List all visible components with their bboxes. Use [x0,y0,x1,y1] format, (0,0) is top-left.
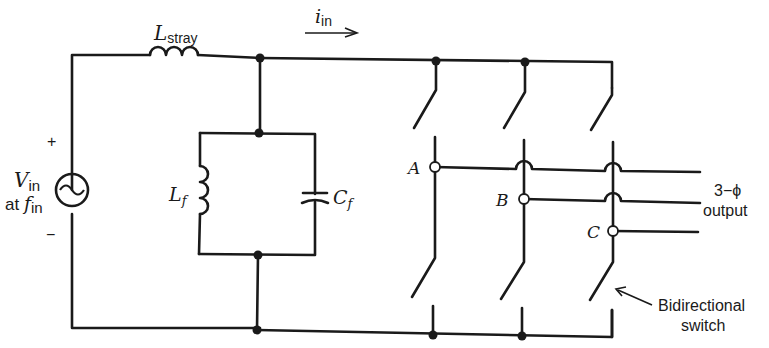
node-b-label: B [495,190,509,210]
filter-inductor-label: Lf [168,183,189,208]
stray-inductor-label: Lstray [153,21,198,46]
filter-inductor-icon [200,166,208,214]
upper-switches [414,61,612,130]
plus-sign: + [47,133,56,150]
output-label-line2: output [703,202,748,219]
pointer-arrow-icon [618,290,652,305]
node-c-terminal [608,226,618,236]
source-voltage-label: Vin [14,168,40,194]
source-branch [56,55,260,328]
minus-sign: − [46,226,55,243]
filter-capacitor-label: Cf [333,186,355,211]
switch-a-upper-icon [414,61,436,128]
source-frequency-label: at fin [5,192,43,216]
switch-label-line2: switch [681,317,725,334]
output-line-a [435,161,700,172]
node-a-terminal [430,162,440,172]
switch-c-upper-icon [591,88,612,130]
switch-b-upper-icon [504,62,525,128]
current-label: iin [315,5,332,29]
output-label-line1: 3−ϕ [714,182,741,199]
switch-label-line1: Bidirectional [658,297,745,314]
lc-filter [199,58,328,335]
leg-b [501,140,524,299]
node-c-label: C [587,222,600,242]
leg-c [590,142,613,300]
circuit-diagram: Lstray iin + − Vin at fin Lf Cf A B C 3−… [0,0,769,348]
output-line-c [613,231,698,232]
node-b-terminal [519,194,529,204]
node-a-label: A [406,158,420,178]
stray-inductor-icon [150,47,260,58]
